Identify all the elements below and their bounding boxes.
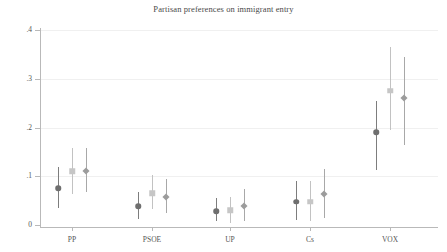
gridline [41,176,438,177]
x-tick [230,227,231,231]
x-axis-line [40,227,438,228]
y-tick-label: .3 [8,74,32,83]
y-tick [35,79,40,80]
data-point-marker [82,168,89,175]
y-tick [35,225,40,226]
confidence-interval [376,101,377,170]
x-tick-label-vox: VOX [360,235,420,244]
data-point-marker [162,193,169,200]
data-point-marker [227,208,233,214]
data-point-marker [387,88,393,94]
data-point-marker [320,191,327,198]
x-tick-label-pp: PP [42,235,102,244]
data-point-marker [240,203,247,210]
data-point-marker [213,209,219,215]
data-point-marker [135,204,141,210]
x-tick-label-cs: Cs [280,235,340,244]
x-tick [390,227,391,231]
x-tick [72,227,73,231]
y-tick [35,176,40,177]
data-point-marker [307,199,313,205]
data-point-marker [149,191,155,197]
y-tick [35,128,40,129]
y-tick [35,30,40,31]
data-point-marker [373,130,379,136]
x-tick [310,227,311,231]
y-tick-label: .4 [8,25,32,34]
chart-canvas: Partisan preferences on immigrant entry … [0,0,447,252]
data-point-marker [400,95,407,102]
chart-title: Partisan preferences on immigrant entry [0,4,447,14]
y-tick-label: 0 [8,220,32,229]
gridline [41,128,438,129]
x-tick [152,227,153,231]
y-tick-label: .2 [8,123,32,132]
y-tick-label: .1 [8,171,32,180]
data-point-marker [55,186,61,192]
x-tick-label-up: UP [200,235,260,244]
gridline [41,30,438,31]
x-tick-label-psoe: PSOE [122,235,182,244]
data-point-marker [69,169,75,175]
data-point-marker [293,199,299,205]
gridline [41,79,438,80]
